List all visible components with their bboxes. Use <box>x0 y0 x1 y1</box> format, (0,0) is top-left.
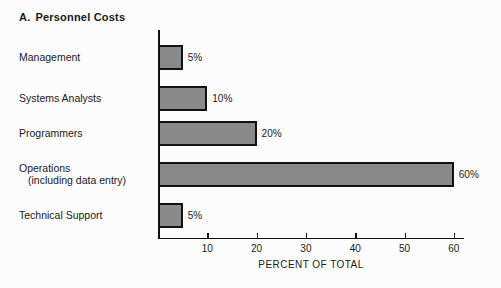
category-label-sublabel: (including data entry) <box>19 174 126 187</box>
x-axis-tick-label: 50 <box>390 243 420 255</box>
x-axis-tick-mark <box>355 233 356 238</box>
x-axis-tick-label: 30 <box>291 243 321 255</box>
personnel-costs-chart: A.Personnel Costs Management5%Systems An… <box>0 0 501 288</box>
bar <box>158 121 257 146</box>
x-axis-tick-mark <box>257 233 258 238</box>
category-label: Systems Analysts <box>19 92 101 105</box>
x-axis-tick-label: 20 <box>242 243 272 255</box>
bar-value-label: 5% <box>188 211 202 221</box>
bar <box>158 162 454 187</box>
bar <box>158 203 183 228</box>
bar-value-label: 10% <box>212 94 232 104</box>
bar <box>158 86 207 111</box>
bar-value-label: 5% <box>188 53 202 63</box>
x-axis-tick-label: 10 <box>192 243 222 255</box>
category-label-text: Programmers <box>19 127 83 139</box>
x-axis-tick-label: 60 <box>439 243 469 255</box>
x-axis-tick-mark <box>405 233 406 238</box>
bar-value-label: 60% <box>459 170 479 180</box>
category-label-text: Systems Analysts <box>19 92 101 104</box>
category-label: Technical Support <box>19 209 102 222</box>
x-axis-title: PERCENT OF TOTAL <box>158 259 464 270</box>
category-label-text: Operations <box>19 162 70 174</box>
category-label: Operations(including data entry) <box>19 162 126 187</box>
category-label-text: Technical Support <box>19 209 102 221</box>
bar-value-label: 20% <box>262 129 282 139</box>
category-label: Programmers <box>19 127 83 140</box>
x-axis-tick-label: 40 <box>340 243 370 255</box>
x-axis-tick-mark <box>306 233 307 238</box>
chart-title-letter: A. <box>19 11 30 23</box>
bar <box>158 45 183 70</box>
x-axis-tick-mark <box>454 233 455 238</box>
chart-title: A.Personnel Costs <box>19 11 125 23</box>
category-label: Management <box>19 51 80 64</box>
x-axis-tick-mark <box>207 233 208 238</box>
chart-title-text: Personnel Costs <box>35 11 125 23</box>
category-label-text: Management <box>19 51 80 63</box>
